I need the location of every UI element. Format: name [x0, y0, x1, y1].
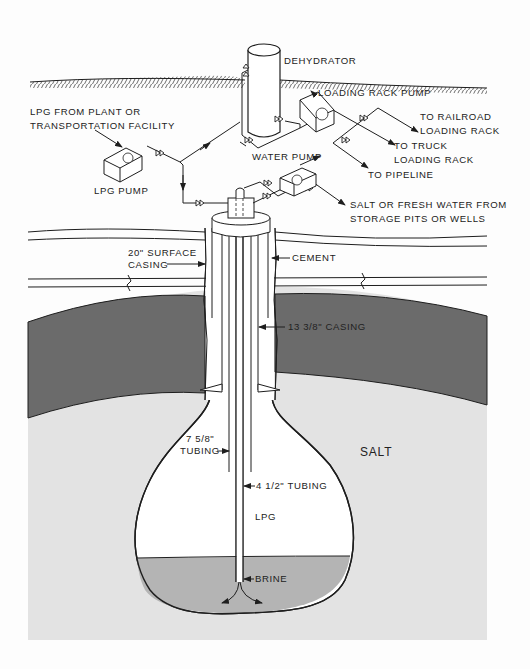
lpg-pump: LPG PUMP	[94, 148, 148, 196]
tubing-4-label: 4 1/2" TUBING	[256, 480, 327, 491]
loading-rack-pump-label: LOADING RACK PUMP	[318, 87, 431, 98]
lpg-source-label-line1: LPG FROM PLANT OR	[30, 106, 141, 117]
surface-casing-label-line1: 20" SURFACE	[128, 247, 197, 258]
cement-label: CEMENT	[292, 252, 336, 263]
wellhead	[212, 188, 270, 237]
dehydrator-label: DEHYDRATOR	[284, 55, 356, 66]
water-source-label-line2: STORAGE PITS OR WELLS	[350, 213, 486, 224]
casing-13-label: 13 3/8" CASING	[288, 321, 366, 332]
surface-casing-label-line2: CASING	[128, 259, 168, 270]
tubing-7-label-line1: 7 5/8"	[186, 433, 214, 444]
brine-label: BRINE	[255, 573, 287, 584]
lpg-pump-label: LPG PUMP	[94, 185, 148, 196]
lpg-source-label-line2: TRANSPORTATION FACILITY	[30, 120, 175, 131]
to-truck-label-line2: LOADING RACK	[394, 154, 474, 165]
to-pipeline-label: TO PIPELINE	[368, 169, 434, 180]
water-source-label-line1: SALT OR FRESH WATER FROM	[350, 199, 507, 210]
loading-rack-pump: LOADING RACK PUMP	[300, 87, 431, 132]
water-pump-label: WATER PUMP	[252, 151, 322, 162]
to-truck-label-line1: TO TRUCK	[394, 140, 448, 151]
lpg-label: LPG	[255, 511, 276, 522]
to-railroad-label-line2: LOADING RACK	[420, 125, 500, 136]
tubing-7-label-line2: TUBING	[180, 445, 220, 456]
to-railroad-label-line1: TO RAILROAD	[420, 111, 491, 122]
lpg-storage-diagram: DEHYDRATOR	[0, 0, 530, 669]
salt-label: SALT	[360, 445, 392, 459]
